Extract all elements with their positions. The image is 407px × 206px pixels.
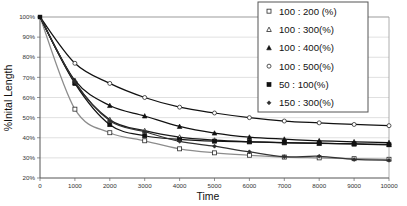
- legend-item-label: 100 : 500(%): [279, 61, 334, 72]
- x-tick-label: 4000: [173, 182, 187, 189]
- data-point-marker-filled-square: [108, 123, 112, 127]
- x-tick-label: 6000: [243, 182, 257, 189]
- chart-legend: 100 : 200 (%)100 : 300(%)100 : 400(%)100…: [258, 2, 368, 112]
- data-point-marker-filled-square: [282, 141, 286, 145]
- x-tick-label: 3000: [138, 182, 152, 189]
- x-tick-label: 7000: [277, 182, 291, 189]
- legend-item-label: 100 : 400(%): [279, 42, 334, 53]
- data-point-marker-open-circle: [267, 64, 271, 68]
- data-point-marker-open-circle: [178, 105, 182, 109]
- x-tick-label: 1000: [68, 182, 82, 189]
- y-tick-label: 90%: [23, 33, 36, 40]
- y-tick-label: 100%: [19, 13, 35, 20]
- y-axis-title: %Inital Length: [2, 65, 14, 132]
- y-tick-label: 50%: [23, 114, 36, 121]
- x-tick-label: 5000: [208, 182, 222, 189]
- chart-container: 0100020003000400050006000700080009000100…: [0, 0, 407, 206]
- data-point-marker-open-circle: [247, 116, 251, 120]
- y-tick-label: 20%: [23, 174, 36, 181]
- data-point-marker-open-square: [108, 131, 112, 135]
- line-chart: 0100020003000400050006000700080009000100…: [0, 0, 407, 206]
- data-point-marker-filled-square: [143, 134, 147, 138]
- data-point-marker-filled-square: [387, 143, 391, 147]
- y-tick-label: 40%: [23, 134, 36, 141]
- x-tick-label: 2000: [103, 182, 117, 189]
- data-point-marker-open-square: [267, 9, 271, 13]
- legend-item-label: 50 : 100(%): [279, 79, 329, 90]
- data-point-marker-filled-square: [267, 83, 271, 87]
- data-point-marker-filled-square: [317, 141, 321, 145]
- data-point-marker-open-square: [213, 151, 217, 155]
- y-tick-label: 80%: [23, 53, 36, 60]
- y-tick-label: 30%: [23, 154, 36, 161]
- data-point-marker-open-circle: [282, 119, 286, 123]
- data-point-marker-open-circle: [73, 61, 77, 65]
- x-tick-label: 8000: [312, 182, 326, 189]
- data-point-marker-open-circle: [317, 121, 321, 125]
- data-point-marker-filled-square: [213, 139, 217, 143]
- data-point-marker-open-square: [143, 139, 147, 143]
- y-tick-label: 60%: [23, 94, 36, 101]
- data-point-marker-open-square: [178, 147, 182, 151]
- y-tick-label: 70%: [23, 74, 36, 81]
- legend-box: [258, 2, 368, 112]
- legend-item-label: 100 : 200 (%): [279, 6, 337, 17]
- data-point-marker-open-circle: [352, 122, 356, 126]
- data-point-marker-open-circle: [108, 81, 112, 85]
- data-point-marker-filled-square: [247, 140, 251, 144]
- data-point-marker-filled-square: [352, 142, 356, 146]
- origin-marker: [38, 15, 42, 19]
- legend-item-label: 100 : 300(%): [279, 24, 334, 35]
- x-tick-label: 9000: [347, 182, 361, 189]
- data-point-marker-open-square: [73, 107, 77, 111]
- x-tick-label: 10000: [380, 182, 398, 189]
- data-point-marker-open-circle: [213, 111, 217, 115]
- x-tick-label: 0: [38, 182, 42, 189]
- x-axis-title: Time: [197, 190, 220, 202]
- legend-item-label: 150 : 300(%): [279, 97, 334, 108]
- data-point-marker-open-circle: [387, 124, 391, 128]
- data-point-marker-open-circle: [143, 96, 147, 100]
